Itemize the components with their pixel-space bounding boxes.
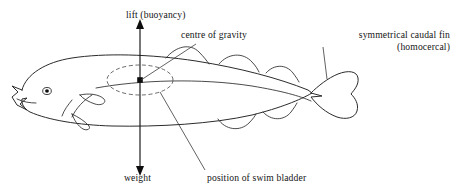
leader-centre-of-gravity [141,44,196,80]
pelvic-fin [72,114,90,130]
pectoral-fin [80,94,105,105]
fish-eye-pupil [45,89,49,92]
anal-fin-first [218,114,256,129]
fish-body-group [12,47,358,130]
label-centre-of-gravity: centre of gravity [181,29,247,41]
label-lift-buoyancy: lift (buoyancy) [126,9,186,21]
label-caudal-fin-line-2: (homocercal) [318,41,450,53]
label-caudal-fin-line-1: symmetrical caudal fin [359,29,450,40]
fish-mouth [17,99,36,103]
lateral-line [96,81,311,101]
label-symmetrical-caudal-fin: symmetrical caudal fin(homocercal) [318,29,450,53]
dorsal-fin-third [266,66,299,82]
centre-of-gravity-dot [137,77,143,83]
vertical-force-arrow [136,19,144,176]
caudal-fin [311,72,358,119]
operculum-inner [62,100,72,116]
leader-swim-bladder [160,92,205,170]
operculum [72,95,92,117]
label-weight: weight [124,172,151,184]
fish-eye [43,88,52,95]
label-position-of-swim-bladder: position of swim bladder [207,172,306,184]
fish-buoyancy-diagram: lift (buoyancy) centre of gravity symmet… [0,0,461,196]
